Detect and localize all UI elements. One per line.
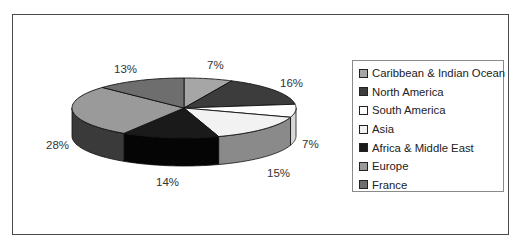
- legend-swatch-icon: [359, 69, 368, 78]
- slice-percent-label: 14%: [156, 177, 179, 189]
- legend-item-africa-middle-east: Africa & Middle East: [359, 138, 503, 157]
- legend-label: Europe: [372, 160, 408, 172]
- legend-item-caribbean: Caribbean & Indian Ocean: [359, 64, 503, 83]
- legend: Caribbean & Indian Ocean North America S…: [352, 60, 504, 192]
- legend-item-europe: Europe: [359, 157, 503, 176]
- legend-swatch-icon: [359, 87, 368, 96]
- legend-label: Africa & Middle East: [372, 142, 474, 154]
- legend-label: Asia: [372, 123, 394, 135]
- legend-swatch-icon: [359, 125, 368, 134]
- pie-3d: [72, 78, 296, 166]
- slice-percent-label: 28%: [46, 140, 69, 152]
- legend-label: North America: [372, 86, 444, 98]
- legend-label: Caribbean & Indian Ocean: [372, 67, 505, 79]
- slice-percent-label: 7%: [207, 60, 224, 72]
- legend-item-south-america: South America: [359, 101, 503, 120]
- legend-swatch-icon: [359, 143, 368, 152]
- legend-swatch-icon: [359, 162, 368, 171]
- legend-item-north-america: North America: [359, 83, 503, 102]
- legend-swatch-icon: [359, 180, 368, 189]
- slice-percent-label: 13%: [114, 64, 137, 76]
- legend-label: France: [372, 179, 407, 191]
- legend-item-france: France: [359, 176, 503, 195]
- legend-swatch-icon: [359, 106, 368, 115]
- slice-percent-label: 7%: [302, 139, 319, 151]
- slice-percent-label: 16%: [280, 78, 303, 90]
- legend-item-asia: Asia: [359, 120, 503, 139]
- legend-label: South America: [372, 104, 445, 116]
- slice-percent-label: 15%: [267, 168, 290, 180]
